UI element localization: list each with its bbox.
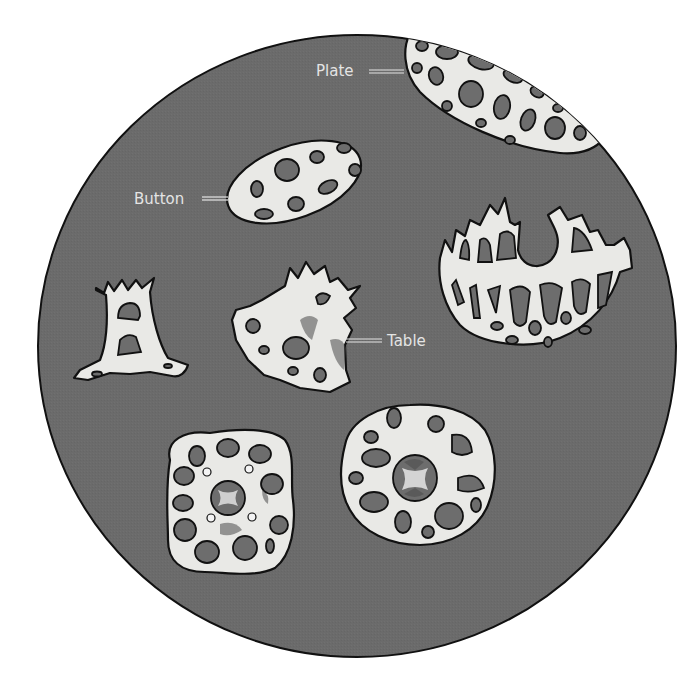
rosette-right-ossicle: [341, 405, 495, 545]
ossicle-diagram: Plate Button Table: [0, 0, 700, 687]
label-button-text: Button: [134, 190, 184, 208]
rosette-left-ossicle: [167, 430, 294, 574]
label-table-text: Table: [386, 332, 426, 350]
label-plate-text: Plate: [316, 62, 354, 80]
